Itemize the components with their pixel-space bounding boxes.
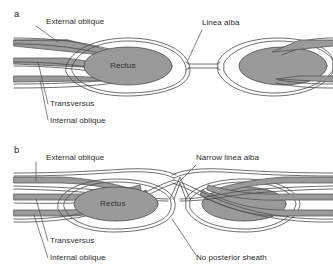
panel-a: a bbox=[0, 0, 333, 137]
leader-linea-alba-a bbox=[188, 30, 202, 60]
figure-abdominal-wall-cross-sections: a bbox=[0, 0, 333, 274]
label-rectus-b: Rectus bbox=[100, 200, 126, 208]
label-narrow-linea-alba-b: Narrow linea alba bbox=[196, 154, 259, 163]
label-external-oblique-a: External oblique bbox=[46, 18, 104, 27]
label-external-oblique-b: External oblique bbox=[46, 154, 104, 163]
label-no-posterior-sheath-b: No posterior sheath bbox=[196, 254, 267, 263]
linea-alba-strip-a bbox=[186, 62, 220, 70]
leader-no-posterior-sheath-b bbox=[172, 219, 196, 255]
leader-transversus-a bbox=[38, 62, 48, 104]
label-transversus-b: Transversus bbox=[50, 237, 94, 246]
label-internal-oblique-a: Internal oblique bbox=[50, 117, 106, 126]
label-transversus-a: Transversus bbox=[50, 100, 94, 109]
leader-external-oblique-a bbox=[36, 26, 58, 42]
label-rectus-a: Rectus bbox=[110, 62, 136, 70]
label-linea-alba-a: Linea alba bbox=[202, 19, 239, 28]
leader-transversus-b bbox=[36, 199, 48, 241]
panel-b: b bbox=[0, 137, 333, 274]
label-internal-oblique-b: Internal oblique bbox=[50, 254, 106, 263]
